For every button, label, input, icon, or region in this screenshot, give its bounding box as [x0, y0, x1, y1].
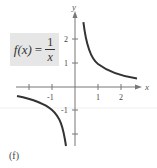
function-label: f(x) = 1 x: [10, 33, 59, 66]
function-label-equals: =: [35, 42, 42, 58]
x-tick-label: -1: [47, 93, 54, 102]
graph-canvas: -1 1 2 x 2 1 -1 y: [0, 0, 157, 168]
curve-right-branch: [83, 22, 137, 78]
x-tick-label: 2: [119, 93, 123, 102]
x-axis: -1 1 2 x: [16, 82, 149, 102]
y-tick-label: -1: [61, 106, 68, 115]
y-axis-label: y: [71, 2, 76, 12]
panel-label: (f): [9, 150, 19, 161]
function-label-fraction: 1 x: [45, 36, 55, 63]
function-label-lhs: f(x): [14, 42, 32, 58]
fraction-numerator: 1: [45, 36, 55, 50]
y-axis-arrow-icon: [73, 11, 78, 18]
x-axis-label: x: [144, 82, 149, 92]
fraction-denominator: x: [48, 50, 53, 63]
function-graph-figure: -1 1 2 x 2 1 -1 y f(x) = 1 x (f): [0, 0, 157, 168]
y-axis: 2 1 -1 y: [61, 2, 78, 146]
curve-left-branch: [17, 96, 66, 146]
y-tick-label: 2: [64, 35, 68, 44]
x-tick-label: 1: [96, 93, 100, 102]
x-axis-arrow-icon: [135, 85, 142, 90]
y-tick-label: 1: [64, 59, 68, 68]
